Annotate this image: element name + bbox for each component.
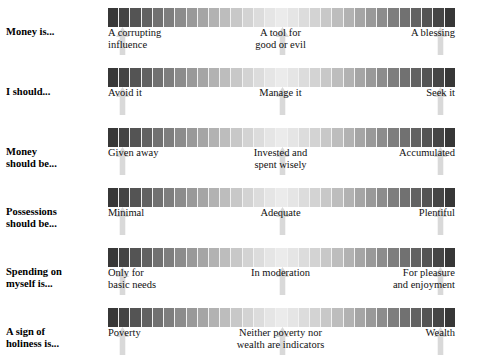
scale-segment[interactable]	[344, 8, 355, 27]
scale-segment[interactable]	[355, 248, 366, 267]
scale-segment[interactable]	[175, 128, 186, 147]
scale-segment[interactable]	[355, 128, 366, 147]
scale-segment[interactable]	[243, 248, 254, 267]
scale-segment[interactable]	[153, 128, 164, 147]
scale-segment[interactable]	[377, 308, 388, 327]
scale-segment[interactable]	[254, 248, 265, 267]
scale-segment[interactable]	[422, 8, 433, 27]
scale-segment[interactable]	[220, 8, 231, 27]
scale-segment[interactable]	[164, 68, 175, 87]
scale-segment[interactable]	[243, 188, 254, 207]
scale-segment[interactable]	[400, 8, 411, 27]
scale-segment[interactable]	[119, 8, 130, 27]
scale-segment[interactable]	[377, 68, 388, 87]
scale-segment[interactable]	[265, 188, 276, 207]
scale-segment[interactable]	[164, 248, 175, 267]
scale-segment[interactable]	[164, 8, 175, 27]
scale-segment[interactable]	[164, 308, 175, 327]
scale-segment[interactable]	[142, 308, 153, 327]
scale-segment[interactable]	[366, 128, 377, 147]
scale-segment[interactable]	[433, 8, 444, 27]
scale-segment[interactable]	[299, 248, 310, 267]
scale-segment[interactable]	[310, 68, 321, 87]
scale-segment[interactable]	[153, 8, 164, 27]
gradient-scale-bar[interactable]	[108, 248, 455, 267]
scale-segment[interactable]	[276, 248, 287, 267]
scale-segment[interactable]	[321, 68, 332, 87]
scale-segment[interactable]	[366, 308, 377, 327]
scale-segment[interactable]	[187, 128, 198, 147]
scale-segment[interactable]	[344, 128, 355, 147]
scale-segment[interactable]	[198, 308, 209, 327]
scale-segment[interactable]	[433, 308, 444, 327]
scale-segment[interactable]	[243, 8, 254, 27]
scale-segment[interactable]	[243, 128, 254, 147]
scale-segment[interactable]	[164, 128, 175, 147]
scale-segment[interactable]	[299, 128, 310, 147]
scale-segment[interactable]	[310, 8, 321, 27]
scale-segment[interactable]	[388, 308, 399, 327]
scale-segment[interactable]	[411, 68, 422, 87]
scale-segment[interactable]	[433, 248, 444, 267]
scale-segment[interactable]	[142, 128, 153, 147]
scale-segment[interactable]	[332, 68, 343, 87]
scale-segment[interactable]	[355, 308, 366, 327]
scale-segment[interactable]	[288, 8, 299, 27]
scale-segment[interactable]	[220, 68, 231, 87]
scale-segment[interactable]	[276, 8, 287, 27]
scale-segment[interactable]	[175, 248, 186, 267]
scale-segment[interactable]	[445, 128, 455, 147]
scale-segment[interactable]	[366, 188, 377, 207]
scale-segment[interactable]	[299, 8, 310, 27]
scale-segment[interactable]	[377, 188, 388, 207]
scale-segment[interactable]	[400, 308, 411, 327]
scale-segment[interactable]	[400, 128, 411, 147]
scale-segment[interactable]	[130, 248, 141, 267]
scale-segment[interactable]	[108, 188, 119, 207]
scale-segment[interactable]	[209, 308, 220, 327]
scale-segment[interactable]	[355, 8, 366, 27]
scale-segment[interactable]	[164, 188, 175, 207]
scale-segment[interactable]	[254, 308, 265, 327]
scale-segment[interactable]	[231, 308, 242, 327]
scale-segment[interactable]	[108, 248, 119, 267]
scale-segment[interactable]	[288, 128, 299, 147]
scale-segment[interactable]	[411, 248, 422, 267]
scale-segment[interactable]	[422, 308, 433, 327]
scale-segment[interactable]	[209, 8, 220, 27]
scale-segment[interactable]	[108, 68, 119, 87]
scale-segment[interactable]	[310, 188, 321, 207]
scale-segment[interactable]	[198, 128, 209, 147]
scale-segment[interactable]	[265, 68, 276, 87]
scale-segment[interactable]	[119, 68, 130, 87]
scale-segment[interactable]	[142, 68, 153, 87]
scale-segment[interactable]	[198, 188, 209, 207]
scale-segment[interactable]	[366, 8, 377, 27]
scale-segment[interactable]	[411, 8, 422, 27]
scale-segment[interactable]	[344, 68, 355, 87]
scale-segment[interactable]	[422, 188, 433, 207]
scale-segment[interactable]	[321, 128, 332, 147]
scale-segment[interactable]	[231, 248, 242, 267]
scale-segment[interactable]	[411, 188, 422, 207]
scale-segment[interactable]	[119, 128, 130, 147]
scale-segment[interactable]	[243, 308, 254, 327]
scale-segment[interactable]	[187, 248, 198, 267]
scale-segment[interactable]	[153, 248, 164, 267]
scale-segment[interactable]	[254, 68, 265, 87]
scale-segment[interactable]	[220, 308, 231, 327]
scale-segment[interactable]	[366, 248, 377, 267]
scale-segment[interactable]	[445, 8, 455, 27]
scale-segment[interactable]	[254, 188, 265, 207]
scale-segment[interactable]	[220, 248, 231, 267]
scale-segment[interactable]	[344, 188, 355, 207]
scale-segment[interactable]	[119, 308, 130, 327]
gradient-scale-bar[interactable]	[108, 308, 455, 327]
scale-segment[interactable]	[344, 248, 355, 267]
scale-segment[interactable]	[288, 248, 299, 267]
scale-segment[interactable]	[254, 128, 265, 147]
scale-segment[interactable]	[445, 188, 455, 207]
scale-segment[interactable]	[209, 128, 220, 147]
scale-segment[interactable]	[422, 248, 433, 267]
scale-segment[interactable]	[433, 188, 444, 207]
